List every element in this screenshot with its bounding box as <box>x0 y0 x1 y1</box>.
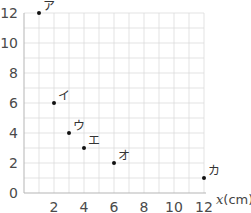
x-axis-tick-labels: 24681012 <box>50 199 213 213</box>
x-tick-label: 6 <box>110 199 119 213</box>
x-tick-label: 8 <box>140 199 149 213</box>
y-tick-label: 2 <box>9 155 18 171</box>
point-label: カ <box>208 164 220 178</box>
x-axis-title: x(cm) <box>216 192 251 207</box>
y-tick-label: 4 <box>9 125 18 141</box>
data-point: オ <box>112 149 130 165</box>
point-marker <box>82 146 86 150</box>
point-marker <box>202 176 206 180</box>
point-marker <box>112 161 116 165</box>
point-label: イ <box>58 89 70 103</box>
y-tick-label: 10 <box>0 35 18 51</box>
x-tick-label: 4 <box>80 199 89 213</box>
point-label: ア <box>43 0 55 13</box>
y-axis-tick-labels: 024681012 <box>0 5 18 201</box>
point-marker <box>67 131 71 135</box>
data-point: ウ <box>67 119 85 135</box>
point-label: エ <box>88 134 100 148</box>
point-marker <box>37 11 41 15</box>
data-point: イ <box>52 89 70 105</box>
x-tick-label: 2 <box>50 199 59 213</box>
point-label: オ <box>118 149 130 163</box>
point-label: ウ <box>73 119 85 133</box>
y-tick-label: 8 <box>9 65 18 81</box>
point-marker <box>52 101 56 105</box>
y-tick-label: 12 <box>0 5 18 21</box>
x-tick-label: 12 <box>195 199 213 213</box>
data-point: エ <box>82 134 100 150</box>
y-tick-label: 6 <box>9 95 18 111</box>
data-points: アイウエオカ <box>37 0 220 180</box>
y-tick-label: 0 <box>9 185 18 201</box>
scatter-chart: 024681012 24681012 アイウエオカ x(cm) <box>0 0 251 213</box>
chart-grid <box>24 13 204 193</box>
x-tick-label: 10 <box>165 199 183 213</box>
data-point: ア <box>37 0 55 15</box>
data-point: カ <box>202 164 220 180</box>
x-axis-unit: (cm) <box>223 192 251 207</box>
